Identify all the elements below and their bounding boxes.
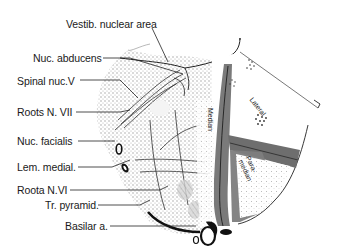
- label-basilar-artery: Basilar a.: [65, 220, 108, 232]
- left-half-pons: [97, 44, 212, 234]
- label-lemniscus-medialis: Lem. medial.: [17, 161, 76, 173]
- label-tractus-pyramidalis: Tr. pyramid.: [45, 199, 99, 211]
- territory-label-median: Median: [206, 108, 214, 131]
- label-vestibular-nuclear-area: Vestib. nuclear area: [66, 18, 157, 30]
- pons-cross-section-drawing: [0, 0, 342, 252]
- pons-diagram: Vestib. nuclear area Nuc. abducens Spina…: [0, 0, 342, 252]
- right-half-territories: [196, 52, 320, 228]
- label-spinal-nucleus-v: Spinal nuc.V: [17, 75, 75, 87]
- label-nucleus-facialis: Nuc. facialis: [17, 135, 72, 147]
- label-nucleus-abducens: Nuc. abducens: [33, 52, 102, 64]
- label-roots-n-vi: Roota N.VI: [17, 184, 67, 196]
- label-roots-n-vii: Roots N. VII: [17, 106, 72, 118]
